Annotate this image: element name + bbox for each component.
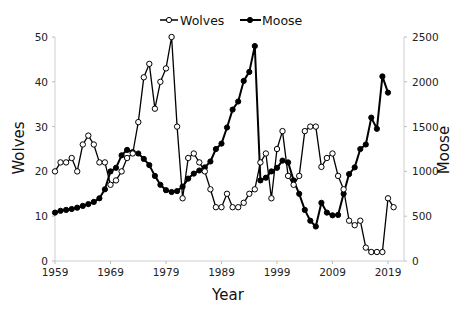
moose-data-point [86,202,91,207]
wolves-data-point [152,106,157,111]
moose-data-point [75,205,80,210]
wolves-data-point [169,34,174,39]
moose-data-point [152,173,157,178]
wolves-data-point [291,182,296,187]
moose-data-point [252,43,257,48]
wolves-data-point [319,164,324,169]
wolves-data-point [213,205,218,210]
x-tick-label: 2009 [319,266,346,278]
wolves-data-point [391,205,396,210]
moose-data-point [258,178,263,183]
moose-line [55,46,388,227]
wolves-data-point [324,155,329,160]
wolves-data-point [380,249,385,254]
moose-data-point [102,187,107,192]
wolves-data-point [274,146,279,151]
wolves-data-point [158,79,163,84]
moose-data-point [213,146,218,151]
moose-data-point [97,196,102,201]
axis-ticks [52,37,407,264]
wolves-data-point [258,160,263,165]
moose-data-point [108,169,113,174]
moose-data-point [280,158,285,163]
wolves-data-point [346,218,351,223]
wolves-data-point [330,151,335,156]
wolves-data-point [252,187,257,192]
wolves-data-point [80,142,85,147]
moose-data-point [374,126,379,131]
wolves-data-point [369,249,374,254]
axis-tick-labels: 1959196919791989199920092019010203040500… [35,31,439,278]
wolves-data-point [186,155,191,160]
wolves-data-point [147,61,152,66]
legend-item-moose: Moose [240,13,303,28]
x-axis-title: Year [211,286,245,304]
wolves-data-point [302,128,307,133]
y-tick-label: 20 [35,165,48,177]
moose-data-point [247,69,252,74]
wolves-data-point [263,151,268,156]
y-tick-label: 40 [35,76,48,88]
moose-data-point [241,78,246,83]
moose-data-point [208,159,213,164]
x-tick-label: 2019 [375,266,402,278]
wolves-data-point [208,187,213,192]
x-tick-label: 1979 [153,266,180,278]
moose-data-point [91,199,96,204]
y2-tick-label: 2000 [412,76,439,88]
wolves-data-point [241,200,246,205]
moose-series [52,43,390,229]
y2-tick-label: 0 [412,255,419,267]
wolves-data-point [75,169,80,174]
wolves-data-point [374,249,379,254]
wolves-data-point [102,160,107,165]
wolves-data-point [363,245,368,250]
moose-data-point [113,165,118,170]
y2-tick-label: 500 [412,210,432,222]
wolves-data-point [52,169,57,174]
moose-data-point [158,182,163,187]
wolves-data-point [91,142,96,147]
wolves-data-point [180,196,185,201]
moose-data-point [197,168,202,173]
wolves-data-point [269,196,274,201]
right-y-axis-title: Moose [435,126,453,174]
wolves-data-point [341,187,346,192]
moose-data-point [230,107,235,112]
x-tick-label: 1959 [42,266,69,278]
wolves-data-point [352,223,357,228]
moose-data-point [313,224,318,229]
moose-data-point [169,189,174,194]
x-tick-label: 1999 [264,266,291,278]
moose-data-point [302,207,307,212]
wolves-data-point [230,205,235,210]
open-circle-marker-icon [166,17,171,22]
moose-data-point [330,213,335,218]
filled-circle-marker-icon [247,17,252,22]
moose-data-point [297,191,302,196]
legend-wolves-label: Wolves [180,13,224,28]
y2-tick-label: 2500 [412,31,439,43]
moose-data-point [219,141,224,146]
moose-data-point [52,210,57,215]
wolves-data-point [174,124,179,129]
wolves-data-point [130,151,135,156]
y-tick-label: 30 [35,121,48,133]
moose-data-point [64,207,69,212]
moose-data-point [347,172,352,177]
left-y-axis-title: Wolves [10,121,28,174]
plot-area: 1959196919791989199920092019010203040500… [35,31,439,278]
wolves-data-point [297,173,302,178]
moose-data-point [119,153,124,158]
moose-data-point [369,115,374,120]
y-tick-label: 0 [41,255,48,267]
wolves-data-point [197,160,202,165]
wolves-data-point [63,160,68,165]
wolves-data-point [108,182,113,187]
wolves-data-point [202,169,207,174]
wolves-data-point [141,75,146,80]
y-tick-label: 50 [35,31,48,43]
moose-data-point [269,169,274,174]
moose-data-point [58,208,63,213]
moose-data-point [147,163,152,168]
